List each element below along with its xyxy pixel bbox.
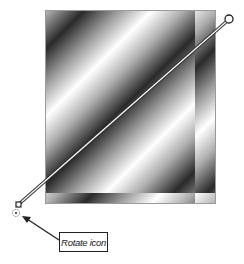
gradient-tool-overlay	[0, 0, 244, 264]
canvas: Rotate icon	[0, 0, 244, 264]
callout-arrow	[22, 216, 59, 240]
callout-label: Rotate icon	[61, 237, 106, 248]
gradient-start-handle[interactable]	[16, 202, 21, 207]
rotate-icon-callout: Rotate icon	[59, 232, 108, 252]
gradient-line[interactable]	[19, 22, 226, 204]
gradient-end-handle[interactable]	[225, 15, 233, 23]
rotate-icon[interactable]	[12, 209, 19, 216]
